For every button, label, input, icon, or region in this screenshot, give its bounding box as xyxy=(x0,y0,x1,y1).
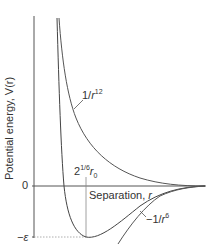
rep-prefix: 1/ xyxy=(82,89,91,101)
attractive-term-label: −1/r6 xyxy=(146,212,169,225)
att-prefix: −1/ xyxy=(146,213,162,225)
x-axis-label-var: r xyxy=(148,189,152,201)
lj-potential-curve xyxy=(57,18,205,237)
lj-potential-plot xyxy=(0,0,215,252)
rep-exp: 12 xyxy=(95,88,103,95)
y-axis-label: Potential energy, V(r) xyxy=(3,77,15,180)
repulsive-term-label: 1/r12 xyxy=(82,88,103,101)
repulsive-leader-line xyxy=(74,100,83,109)
epsilon-tick-label: −ε xyxy=(17,231,28,243)
min-exp: 1/6 xyxy=(80,164,90,171)
x-axis-label: Separation, r xyxy=(89,189,152,201)
minimum-position-label: 21/6r0 xyxy=(74,164,97,179)
x-axis-label-text: Separation, xyxy=(89,189,148,201)
zero-tick-label: 0 xyxy=(22,179,28,191)
att-exp: 6 xyxy=(165,212,169,219)
min-sub: 0 xyxy=(94,172,98,179)
